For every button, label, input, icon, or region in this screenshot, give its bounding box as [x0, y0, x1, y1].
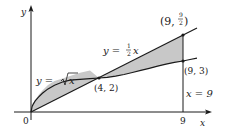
svg-text:2: 2 [179, 19, 183, 26]
svg-text:2: 2 [127, 50, 131, 57]
svg-text:x: x [133, 45, 139, 56]
label-half-x: y = 1 2 x [102, 42, 139, 57]
svg-text:1: 1 [127, 42, 131, 49]
svg-text:(9,: (9, [160, 15, 175, 28]
area-between-curves-diagram: y x 0 9 y = x y = 1 2 x x = 9 (4, 2) (9,… [0, 0, 225, 132]
svg-text:x: x [69, 75, 75, 86]
label-x-equals-9: x = 9 [186, 88, 213, 99]
label-point-9-9-2: (9, 9 2 ) [160, 11, 188, 28]
point-9-3 [181, 59, 184, 62]
label-point-4-2: (4, 2) [94, 83, 118, 93]
svg-text:9: 9 [179, 11, 183, 18]
line-half-x [31, 28, 197, 112]
origin-label: 0 [23, 116, 29, 126]
svg-text:y =: y = [102, 45, 120, 56]
svg-text:): ) [184, 15, 188, 28]
y-axis-label: y [20, 7, 27, 17]
point-9-9-2 [181, 33, 184, 36]
x-axis-label: x [200, 118, 205, 128]
svg-text:y =: y = [35, 75, 53, 86]
point-4-2 [97, 76, 100, 79]
x-tick-9-label: 9 [180, 116, 186, 126]
label-point-9-3: (9, 3) [184, 66, 208, 76]
